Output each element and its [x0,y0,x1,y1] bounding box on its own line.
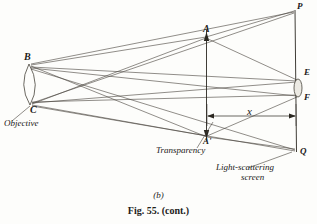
objective-lens [24,64,36,105]
ray-C-to-P [32,13,294,103]
ray-A-to-E [206,38,297,80]
ray-Aprime-to-F [207,97,297,136]
ray-C-to-F [32,95,297,102]
point-label-F: F [304,93,310,102]
ray-bundle-objective-to-eye [31,67,297,103]
lens-body [24,64,36,105]
transparency-plane [204,30,209,141]
panel-label: (b) [0,190,317,200]
ray-Aprime-to-Q [207,137,295,149]
ray-B-to-P [31,12,294,64]
screen-label-line2: screen [241,173,264,182]
point-label-Q: Q [300,147,307,156]
eye-aperture-lens [294,79,302,97]
figure-caption: Fig. 55. (cont.) [0,205,317,216]
ray-A-to-P [206,11,294,37]
dimension-arrowhead-left [207,113,214,118]
point-label-A: A [203,24,210,35]
point-label-E: E [304,68,310,77]
transparency-label: Transparency [156,146,205,155]
eye-aperture-ellipse [294,79,302,97]
dimension-arrowhead-right [289,113,296,118]
figure-page: B C A A' P E F Q Objective Transparency … [0,0,317,224]
objective-label: Objective [4,119,38,128]
ray-bundle-objective-to-screen [31,12,295,151]
ray-B-to-Q [31,69,295,150]
point-label-C: C [30,105,37,116]
point-label-B: B [24,52,31,63]
ray-B-to-A [31,37,206,65]
ray-B-to-E [31,67,297,81]
distance-x-label: x [247,106,252,118]
ray-C-to-E [32,82,297,103]
point-label-P: P [297,2,303,11]
